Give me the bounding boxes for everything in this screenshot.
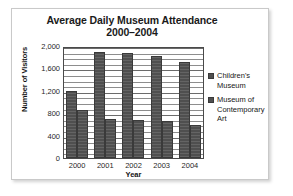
bar-group: [149, 48, 177, 158]
bar: [105, 119, 116, 158]
bar-group: [120, 48, 148, 158]
bar: [122, 53, 133, 158]
bar: [151, 56, 162, 158]
y-tick-2000: 2,000: [16, 43, 60, 51]
chart-title-line1: Average Daily Museum Attendance: [46, 14, 217, 26]
x-tick-2000: 2000: [63, 161, 91, 170]
y-tick-800: 800: [16, 110, 60, 118]
y-tick-1600: 1,600: [16, 65, 60, 73]
legend-entry-childrens-museum: Children's Museum: [208, 71, 270, 90]
chart-title-line2: 2000–2004: [32, 26, 232, 38]
legend-swatch-icon: [208, 97, 214, 103]
legend-label-line1: Museum of: [217, 95, 270, 105]
x-tick-2003: 2003: [148, 161, 176, 170]
legend-label-line2: Contemporary: [217, 105, 270, 115]
bar: [179, 62, 190, 158]
bars-layer: [64, 48, 203, 158]
y-tick-0: 0: [16, 155, 60, 163]
legend-label-line2: Museum: [217, 81, 270, 91]
bar-group: [92, 48, 120, 158]
bar: [162, 121, 173, 158]
x-tick-2001: 2001: [91, 161, 119, 170]
legend-swatch-icon: [208, 73, 214, 79]
x-axis-label: Year: [63, 170, 204, 179]
chart-legend: Children's Museum Museum of Contemporary…: [208, 71, 270, 129]
y-tick-400: 400: [16, 133, 60, 141]
x-tick-2002: 2002: [119, 161, 147, 170]
bar: [190, 125, 201, 158]
y-tick-1200: 1,200: [16, 88, 60, 96]
x-tick-2004: 2004: [176, 161, 204, 170]
bar: [94, 52, 105, 158]
bar-group: [177, 48, 204, 158]
bar: [77, 110, 88, 158]
legend-entry-museum-of-contemporary-art: Museum of Contemporary Art: [208, 95, 270, 124]
bar: [133, 120, 144, 158]
chart-card: Average Daily Museum Attendance 2000–200…: [11, 8, 269, 180]
legend-label-line1: Children's: [217, 71, 270, 81]
bar: [66, 91, 77, 158]
y-axis-ticks: 2,000 1,600 1,200 800 400 0: [12, 47, 60, 159]
plot-area: [63, 47, 204, 159]
chart-title: Average Daily Museum Attendance 2000–200…: [32, 14, 232, 38]
bar-group: [64, 48, 92, 158]
legend-label-line3: Art: [217, 114, 270, 124]
